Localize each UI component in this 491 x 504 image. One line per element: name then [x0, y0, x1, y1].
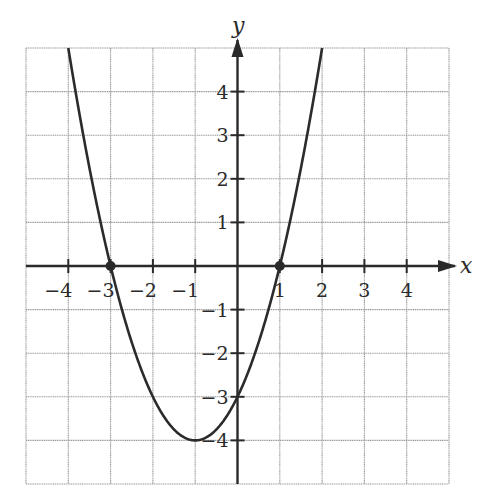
y-tick-label: 3: [216, 124, 228, 146]
y-tick-label: 1: [216, 211, 228, 233]
x-tick-label: 2: [316, 279, 328, 301]
y-tick-label: −3: [200, 386, 228, 408]
y-tick-label: −1: [200, 299, 228, 321]
y-tick-label: 2: [216, 168, 228, 190]
x-intercept-point: [275, 261, 285, 271]
x-tick-label: 3: [358, 279, 370, 301]
parabola-chart: −4−3−2−11234−4−3−2−11234 x y: [0, 0, 491, 504]
x-tick-label: −1: [171, 279, 199, 301]
x-intercept-point: [106, 261, 116, 271]
chart-canvas: −4−3−2−11234−4−3−2−11234 x y: [0, 0, 491, 504]
x-axis-arrow-icon: [438, 260, 457, 272]
x-axis-label: x: [460, 253, 473, 278]
axes: [26, 38, 457, 484]
x-tick-label: −3: [87, 279, 115, 301]
y-tick-label: −2: [200, 342, 228, 364]
x-tick-label: −2: [129, 279, 157, 301]
y-axis-label: y: [231, 13, 245, 38]
x-tick-label: 4: [401, 279, 413, 301]
y-tick-label: 4: [216, 81, 228, 103]
x-tick-label: −4: [44, 279, 72, 301]
